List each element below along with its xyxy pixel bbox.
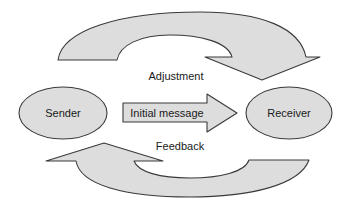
communication-diagram: Sender Receiver Initial message Adjustme… xyxy=(0,0,354,206)
initial-message-label: Initial message xyxy=(130,107,203,119)
feedback-label: Feedback xyxy=(156,140,205,152)
receiver-label: Receiver xyxy=(267,107,311,119)
adjustment-label: Adjustment xyxy=(148,70,203,82)
sender-label: Sender xyxy=(45,107,81,119)
